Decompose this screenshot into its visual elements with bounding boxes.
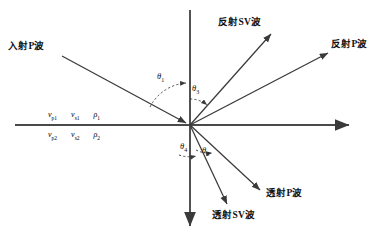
incident-p-wave-label: 入射P波: [8, 42, 45, 52]
ray-diagram-figure: 入射P波 反射SV波 反射P波 透射P波 透射SV波 θ1 θ3 θ4 θ2 v…: [0, 0, 380, 240]
medium-1-parameters: vp1 vs1 ρ1: [48, 110, 100, 121]
medium-2-vs: vs2: [71, 130, 79, 141]
vs1-subscript: s1: [75, 115, 80, 121]
transmitted-sv-wave-label: 透射SV波: [212, 211, 255, 221]
theta-2-label: θ2: [202, 146, 209, 157]
reflected-sv-ray: [190, 34, 271, 125]
vp1-subscript: p1: [52, 115, 58, 121]
vp2-subscript: p2: [52, 135, 58, 141]
transmitted-p-wave-label: 透射P波: [266, 189, 303, 199]
theta-4-arc: [179, 155, 196, 157]
theta-4-label: θ4: [180, 142, 187, 153]
theta-3-subscript: 3: [196, 89, 199, 95]
rho1-subscript: 1: [97, 115, 100, 121]
theta-2-subscript: 2: [206, 151, 209, 157]
reflected-p-ray: [190, 53, 328, 125]
theta-1-subscript: 1: [161, 77, 164, 83]
transmitted-p-ray: [190, 125, 260, 190]
medium-2-parameters: vp2 vs2 ρ2: [48, 130, 100, 141]
theta-1-arc: [150, 83, 186, 107]
theta-1-label: θ1: [157, 72, 164, 83]
medium-1-rho: ρ1: [94, 110, 101, 121]
theta-3-label: θ3: [192, 84, 199, 95]
reflected-sv-wave-label: 反射SV波: [218, 18, 261, 28]
medium-2-rho: ρ2: [94, 130, 101, 141]
rho2-subscript: 2: [97, 135, 100, 141]
vs2-subscript: s2: [75, 135, 80, 141]
theta-3-arc: [190, 99, 207, 105]
reflected-p-wave-label: 反射P波: [331, 40, 368, 50]
medium-1-vp: vp1: [48, 110, 57, 121]
medium-2-vp: vp2: [48, 130, 57, 141]
medium-1-vs: vs1: [71, 110, 79, 121]
transmitted-sv-ray: [190, 125, 227, 204]
theta-4-subscript: 4: [184, 147, 187, 153]
